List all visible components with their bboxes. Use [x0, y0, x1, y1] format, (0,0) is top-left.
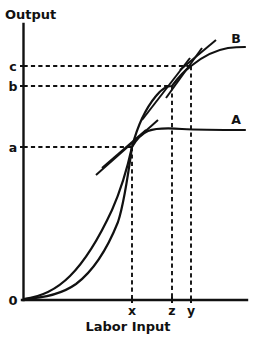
x-tick-label-z: z [168, 303, 175, 318]
curve-A-path [24, 128, 245, 299]
y-axis-title: Output [5, 7, 56, 22]
tangent-at-x-secondary [102, 130, 146, 168]
chart-canvas: Output Labor Input 0 c b a x z y A B [0, 0, 253, 347]
curve-label-B: B [231, 31, 241, 46]
y-tick-label-b: b [9, 79, 18, 94]
curve-label-A: A [231, 112, 241, 127]
production-function-figure: Output Labor Input 0 c b a x z y A B [0, 0, 253, 347]
tangent-at-y-secondary [180, 40, 216, 70]
y-tick-label-a: a [9, 140, 17, 155]
x-tick-label-x: x [128, 303, 136, 318]
x-tick-label-y: y [187, 303, 195, 318]
origin-label: 0 [8, 293, 17, 308]
x-axis-title: Labor Input [85, 319, 170, 334]
curve-B-path [24, 47, 245, 299]
y-tick-label-c: c [9, 59, 16, 74]
